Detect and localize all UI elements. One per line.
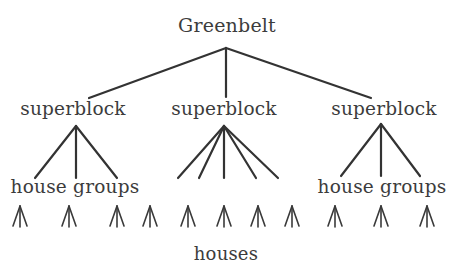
root-to-superblock-edge [226,48,371,98]
superblock-to-group-edge [35,126,76,178]
house-icon [251,206,265,227]
house-prong [181,206,188,226]
house-icon [62,206,76,227]
house-icon [181,206,195,227]
house-prong [374,206,381,226]
house-groups-label-left: house groups [7,178,143,197]
house-prong [224,206,231,226]
house-prong [258,206,265,226]
house-prong [285,206,292,226]
house-icon [285,206,299,227]
house-prong [143,206,150,226]
house-prong [328,206,335,226]
house-prong [150,206,157,226]
house-prong [335,206,342,226]
house-icon [374,206,388,227]
house-prong [427,206,434,226]
houses-label: houses [180,245,272,263]
house-prong [188,206,195,226]
superblock-to-group-edge [76,126,117,178]
house-icon [110,206,124,227]
house-prong [20,206,27,226]
house-icon [328,206,342,227]
house-icon [217,206,231,227]
superblock-edges [35,124,420,178]
house-prong [420,206,427,226]
house-prong [117,206,124,226]
house-icon [143,206,157,227]
house-prong [69,206,76,226]
superblock-label-left: superblock [16,100,130,119]
tree-diagram [0,0,452,278]
house-icons [13,206,434,227]
superblock-label-middle: superblock [167,100,281,119]
house-icon [420,206,434,227]
house-prong [217,206,224,226]
root-to-superblock-edge [89,48,226,98]
root-edges [89,48,371,98]
house-prong [62,206,69,226]
house-prong [381,206,388,226]
house-prong [251,206,258,226]
superblock-label-right: superblock [327,100,441,119]
house-prong [13,206,20,226]
root-label-greenbelt: Greenbelt [177,16,277,35]
house-groups-label-right: house groups [314,178,450,197]
house-prong [292,206,299,226]
superblock-to-group-edge [178,126,224,178]
house-icon [13,206,27,227]
superblock-to-group-edge [381,124,420,176]
house-prong [110,206,117,226]
superblock-to-group-edge [199,126,224,178]
superblock-to-group-edge [341,124,381,176]
